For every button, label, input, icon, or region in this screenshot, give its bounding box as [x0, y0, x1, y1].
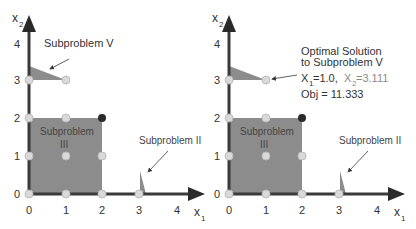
x1-label: X: [301, 72, 309, 84]
y-tick-0: 0: [214, 188, 220, 200]
x-axis-arrow-icon: [388, 187, 405, 201]
y-tick-3: 3: [214, 74, 220, 86]
subproblem-v-region: [229, 66, 266, 80]
y-tick-1: 1: [14, 150, 20, 162]
y-axis-subscript: 2: [219, 20, 224, 29]
subproblem-iii-label-line1: Subproblem: [40, 126, 94, 137]
subproblem-v-pointer: [50, 59, 69, 69]
x-axis-subscript: 1: [401, 214, 406, 223]
y-tick-0: 0: [14, 188, 20, 200]
y-axis-label: x: [12, 11, 18, 25]
y-tick-1: 1: [214, 150, 220, 162]
x-tick-4: 4: [374, 204, 380, 216]
x-tick-2: 2: [299, 204, 305, 216]
y-axis-arrow-icon: [22, 15, 36, 32]
subproblem-iii-label-line1: Subproblem: [240, 126, 294, 137]
y-axis-arrow-icon: [222, 15, 236, 32]
optimal-integer-point: [98, 114, 106, 122]
x-axis-label: x: [394, 205, 400, 219]
objective-value: Obj = 11.333: [301, 88, 363, 100]
y-tick-2: 2: [214, 112, 220, 124]
y-tick-2: 2: [14, 112, 20, 124]
x-tick-1: 1: [63, 204, 69, 216]
subproblem-iii-label-line2: III: [260, 139, 268, 150]
x-tick-0: 0: [26, 204, 32, 216]
x-tick-4: 4: [174, 204, 180, 216]
optimal-solution-pointer: [272, 75, 297, 79]
y-tick-3: 3: [14, 74, 20, 86]
optimal-integer-point: [298, 114, 306, 122]
y-axis-subscript: 2: [19, 20, 24, 29]
subproblem-ii-pointer: [148, 151, 168, 172]
y-tick-4: 4: [14, 38, 20, 50]
subproblem-ii-label: Subproblem II: [339, 135, 401, 146]
annotation-line2: to Subproblem V: [301, 56, 384, 68]
subproblem-ii-pointer: [348, 151, 368, 172]
x-tick-3: 3: [336, 204, 342, 216]
y-tick-4: 4: [214, 38, 220, 50]
x1-value: =1.0,: [313, 72, 338, 84]
x2-label: X: [344, 72, 352, 84]
subproblem-v-region: [29, 66, 66, 80]
left-panel: 0 1 2 3 4 0 1 2 3 4 x 2 x 1 Subproblem V…: [12, 11, 206, 223]
y-axis-label: x: [212, 11, 218, 25]
right-panel: 0 1 2 3 4 0 1 2 3 4 x 2 x 1 Optimal Solu…: [212, 11, 406, 223]
x-tick-3: 3: [136, 204, 142, 216]
subproblem-iii-label-line2: III: [60, 139, 68, 150]
x-axis-subscript: 1: [201, 214, 206, 223]
branch-and-bound-diagram: 0 1 2 3 4 0 1 2 3 4 x 2 x 1 Subproblem V…: [0, 0, 416, 229]
x-axis-arrow-icon: [188, 187, 205, 201]
x2-value: =3.111: [356, 72, 388, 84]
subproblem-v-label: Subproblem V: [44, 37, 114, 49]
subproblem-ii-label: Subproblem II: [139, 135, 201, 146]
x-tick-0: 0: [226, 204, 232, 216]
x-tick-2: 2: [99, 204, 105, 216]
x-tick-1: 1: [263, 204, 269, 216]
x-axis-label: x: [194, 205, 200, 219]
